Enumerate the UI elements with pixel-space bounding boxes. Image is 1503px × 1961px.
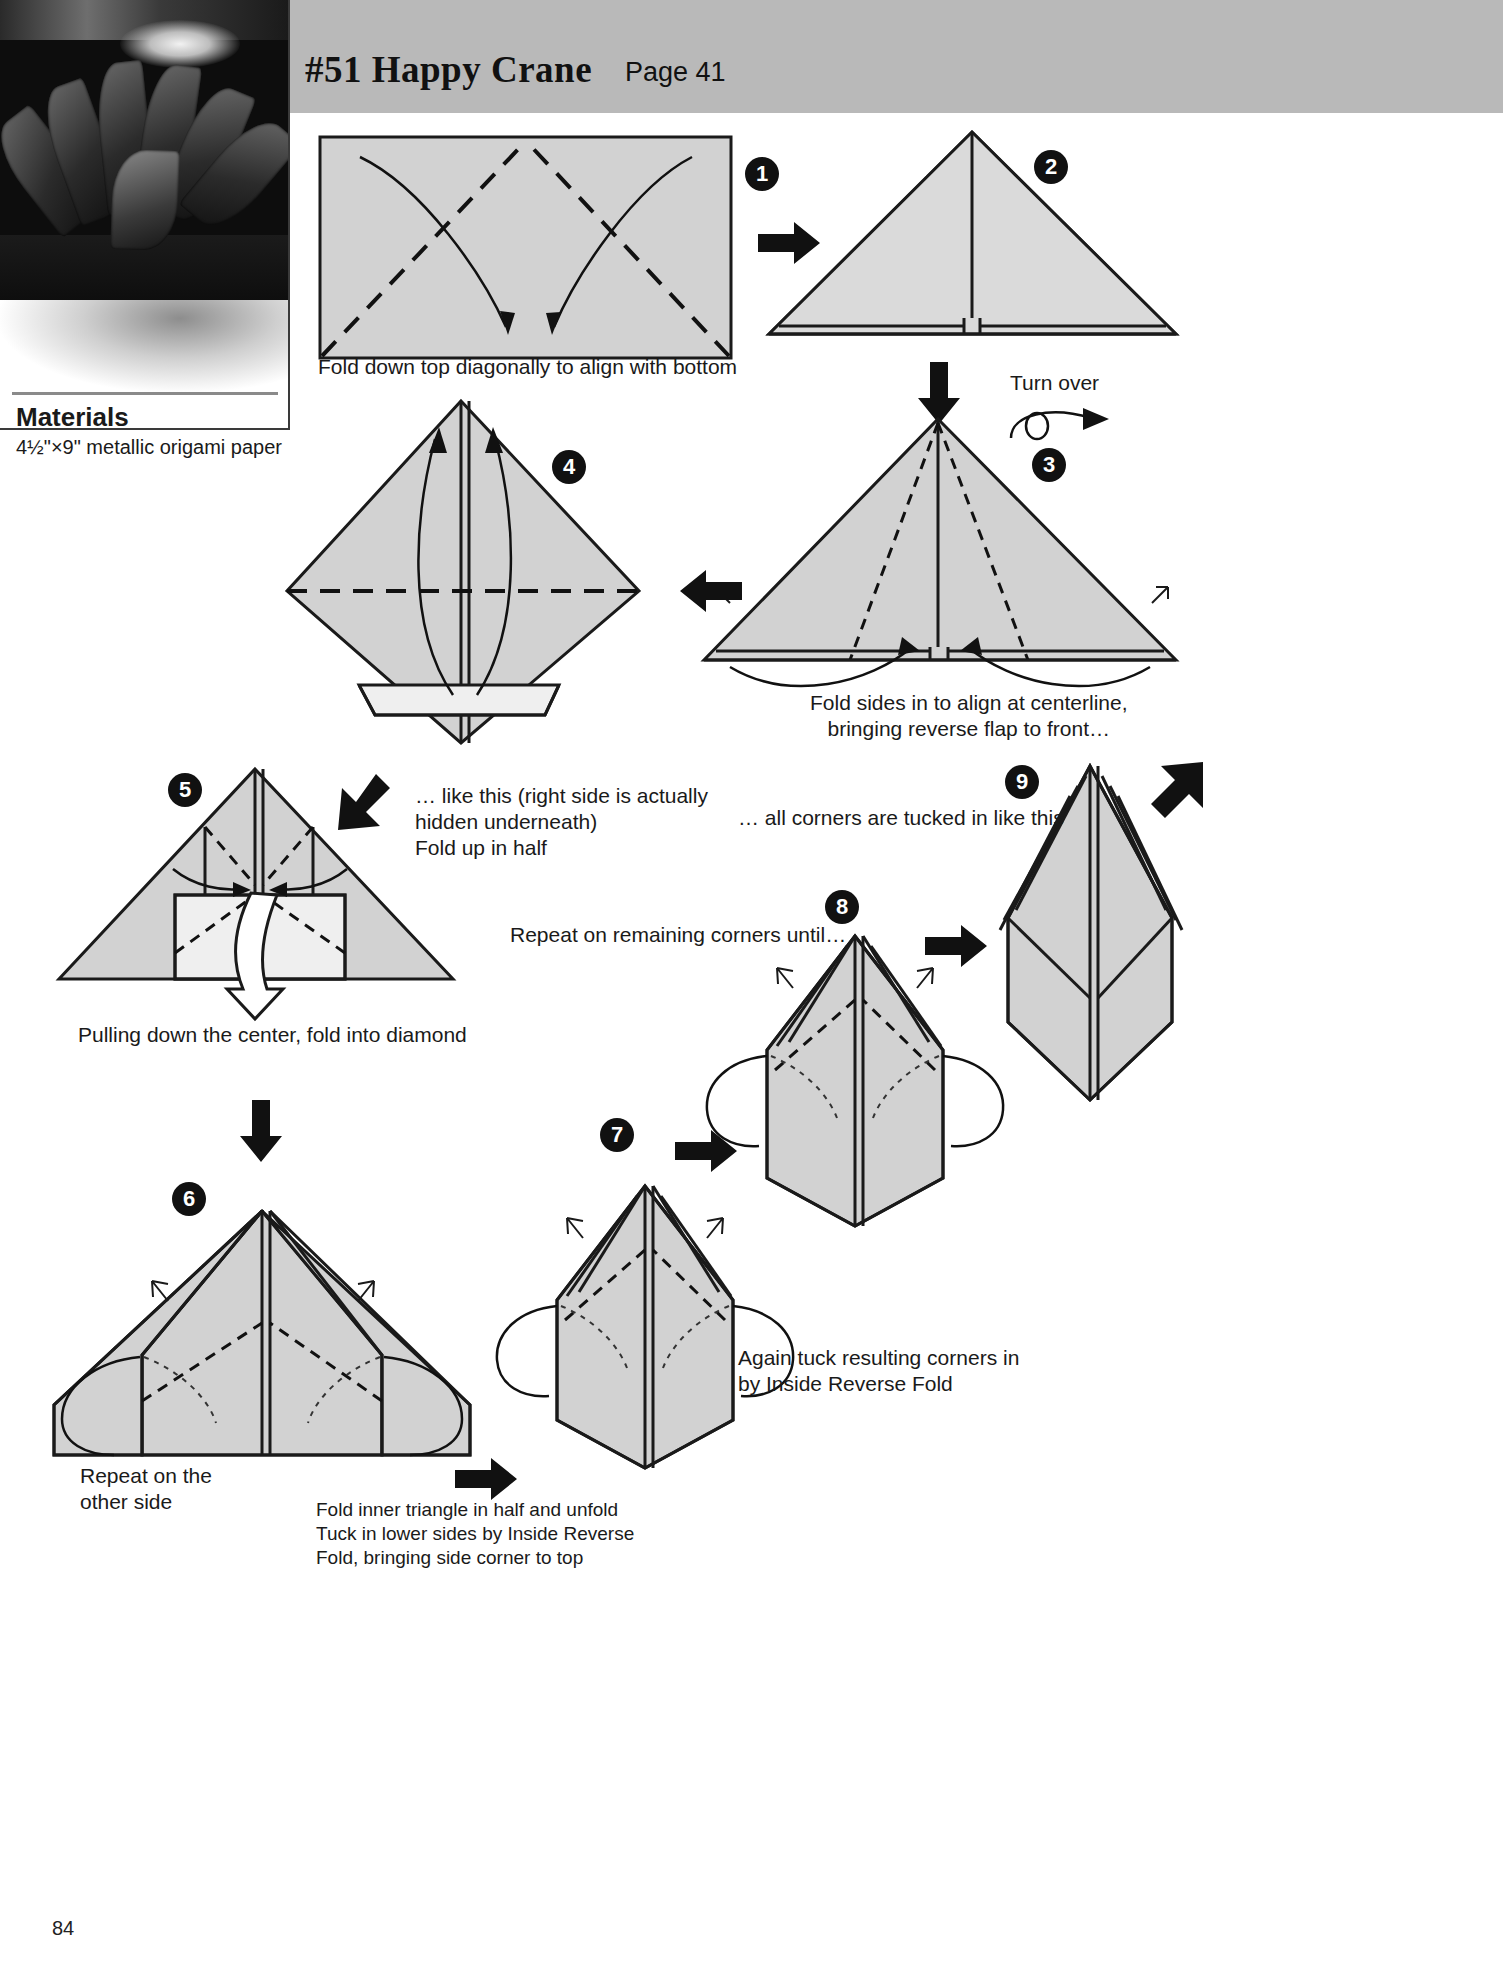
materials-spec: 4½"×9" metallic origami paper [16, 436, 282, 459]
page-number: 84 [52, 1917, 74, 1940]
repeat-corners-label: Repeat on remaining corners until… [510, 922, 846, 948]
diagram-step-1 [318, 135, 733, 360]
diagram-step-2 [765, 128, 1180, 340]
step-badge-7: 7 [600, 1118, 634, 1152]
page-title: #51 Happy Crane [305, 48, 592, 91]
flow-arrow-3-to-4 [680, 570, 742, 612]
step-caption-7: Fold inner triangle in half and unfold T… [316, 1498, 634, 1570]
photo-frame [0, 0, 290, 320]
materials-heading: Materials [16, 402, 129, 433]
diagram-step-3 [700, 415, 1180, 670]
step-badge-8: 8 [825, 890, 859, 924]
step-caption-8: Again tuck resulting corners in by Insid… [738, 1345, 1019, 1397]
diagram-step-6 [40, 1205, 480, 1465]
step-caption-3: Fold sides in to align at centerline, br… [810, 690, 1128, 742]
step-badge-4: 4 [552, 450, 586, 484]
diagram-step-5 [55, 765, 460, 1015]
step-badge-6: 6 [172, 1182, 206, 1216]
diagram-step-8 [715, 930, 995, 1240]
step-badge-3: 3 [1032, 448, 1066, 482]
step-caption-1: Fold down top diagonally to align with b… [318, 354, 737, 380]
step-badge-5: 5 [168, 773, 202, 807]
step-caption-9: … all corners are tucked in like this [738, 805, 1064, 831]
flow-arrow-5-to-6 [240, 1100, 282, 1162]
page-label: Page 41 [625, 57, 726, 88]
step-badge-9: 9 [1005, 765, 1039, 799]
turn-over-label: Turn over [1010, 370, 1099, 396]
step-caption-6: Repeat on the other side [80, 1463, 212, 1515]
step-badge-2: 2 [1034, 150, 1068, 184]
step-caption-5: Pulling down the center, fold into diamo… [78, 1022, 467, 1048]
diagram-step-4 [283, 395, 645, 765]
flow-arrow-9-out [1145, 760, 1207, 822]
